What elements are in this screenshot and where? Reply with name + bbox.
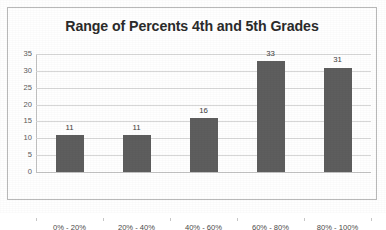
bar-value-label: 16 — [184, 107, 224, 115]
gridline-35 — [36, 54, 371, 55]
y-axis-tick-labels: 35302520151050 — [11, 54, 32, 172]
chart-frame: Range of Percents 4th and 5th Grades 353… — [7, 7, 377, 200]
bar-value-label: 31 — [318, 56, 358, 64]
bar-value-label: 33 — [251, 50, 291, 58]
bar[interactable] — [257, 61, 285, 172]
gridline-0 — [36, 172, 371, 173]
bar[interactable] — [324, 68, 352, 173]
gridline-30 — [36, 71, 371, 72]
chart-title: Range of Percents 4th and 5th Grades — [8, 18, 376, 34]
bar[interactable] — [190, 118, 218, 172]
bar[interactable] — [123, 135, 151, 172]
y-tick-label: 35 — [12, 50, 32, 58]
y-tick-label: 0 — [12, 168, 32, 176]
gridline-25 — [36, 88, 371, 89]
y-tick-label: 20 — [12, 101, 32, 109]
bar-value-label: 11 — [117, 124, 157, 132]
bar[interactable] — [56, 135, 84, 172]
bar-value-label: 11 — [50, 124, 90, 132]
y-tick-label: 5 — [12, 151, 32, 159]
y-tick-label: 25 — [12, 84, 32, 92]
y-tick-label: 10 — [12, 134, 32, 142]
y-tick-label: 30 — [12, 67, 32, 75]
y-tick-label: 15 — [12, 118, 32, 126]
plot-area: 110% - 20%1120% - 40%1640% - 60%3360% - … — [36, 54, 371, 172]
